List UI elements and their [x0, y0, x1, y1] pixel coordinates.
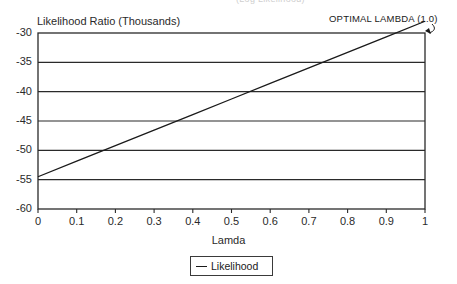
legend-label: Likelihood: [211, 260, 258, 272]
gridlines: [38, 62, 425, 179]
y-tick-label: -40: [2, 85, 32, 97]
y-tick-label: -50: [2, 143, 32, 155]
x-tick-label: 0.4: [180, 215, 206, 227]
x-tick-label: 0.8: [335, 215, 361, 227]
y-tick-label: -60: [2, 202, 32, 214]
annotation-arrow-icon: [425, 24, 434, 34]
x-tick-label: 0.1: [64, 215, 90, 227]
x-tick-label: 0.5: [219, 215, 245, 227]
x-tick-label: 0.3: [141, 215, 167, 227]
x-tick-label: 1: [412, 215, 438, 227]
y-tick-label: -35: [2, 55, 32, 67]
y-tick-label: -45: [2, 114, 32, 126]
x-axis-title: Lamda: [0, 234, 457, 246]
x-tick-label: 0.9: [373, 215, 399, 227]
likelihood-line: [38, 21, 425, 176]
y-tick-label: -30: [2, 26, 32, 38]
y-tick-label: -55: [2, 173, 32, 185]
x-tick-label: 0: [25, 215, 51, 227]
legend: Likelihood: [190, 256, 273, 276]
x-tick-label: 0.7: [296, 215, 322, 227]
chart-page: (Log Likelihood) Likelihood Ratio (Thous…: [0, 0, 457, 284]
line-swatch-icon: [196, 266, 207, 267]
x-tick-label: 0.6: [257, 215, 283, 227]
x-tick-label: 0.2: [102, 215, 128, 227]
